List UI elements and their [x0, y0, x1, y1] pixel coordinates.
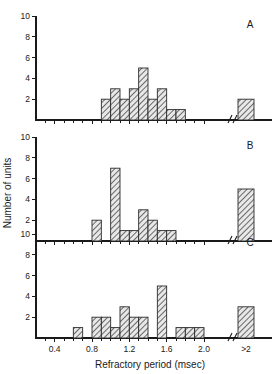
axis-lines	[36, 234, 272, 338]
histogram-bar	[167, 231, 176, 241]
x-tick-label: 1.6	[161, 344, 173, 354]
panel-letter-a: A	[247, 19, 254, 30]
histogram-bar	[157, 89, 166, 120]
y-axis-title: Number of units	[2, 158, 13, 229]
panel-letter-b: B	[247, 140, 254, 151]
panel-a: 246810A	[21, 11, 272, 124]
y-tick-label: 8	[25, 32, 30, 42]
histogram-bar	[195, 328, 204, 338]
y-tick-label: 8	[25, 153, 30, 163]
panel-c: 246810C0.40.81.21.62.0>2	[21, 229, 272, 354]
histogram-bar	[120, 307, 129, 338]
plot-area: 246810A246810B246810C0.40.81.21.62.0>2	[21, 11, 272, 354]
histogram-bar	[92, 220, 101, 241]
histogram-bar	[120, 99, 129, 120]
histogram-bar	[157, 231, 166, 241]
y-tick-label: 6	[25, 53, 30, 63]
histogram-bar	[167, 110, 176, 120]
histogram-bar	[148, 220, 157, 241]
y-tick-label: 4	[25, 73, 30, 83]
histogram-bar	[129, 89, 138, 120]
histogram-bar	[111, 168, 120, 241]
histogram-bar-overflow	[238, 99, 254, 120]
histogram-bar	[139, 68, 148, 120]
histogram-bar	[129, 231, 138, 241]
y-tick-label: 2	[25, 215, 30, 225]
histogram-bar	[157, 286, 166, 338]
panel-b: 246810B	[21, 132, 272, 245]
y-tick-label: 6	[25, 271, 30, 281]
histogram-bar	[139, 210, 148, 241]
histogram-bar	[73, 328, 82, 338]
histogram-bar-overflow	[238, 189, 254, 241]
histogram-bar	[92, 317, 101, 338]
histogram-bar	[111, 89, 120, 120]
histogram-bar	[120, 231, 129, 241]
x-tick-label: 0.8	[86, 344, 98, 354]
panel-letter-c: C	[246, 237, 253, 248]
y-tick-label: 4	[25, 194, 30, 204]
refractory-period-histogram-figure: 246810A246810B246810C0.40.81.21.62.0>2 R…	[0, 0, 278, 374]
histogram-bar	[185, 328, 194, 338]
y-tick-label: 8	[25, 250, 30, 260]
histogram-bar	[176, 110, 185, 120]
x-tick-label: 1.2	[123, 344, 135, 354]
figure-svg: 246810A246810B246810C0.40.81.21.62.0>2 R…	[0, 0, 278, 374]
axis-break-icon	[228, 236, 237, 244]
histogram-bar-overflow	[238, 307, 254, 338]
histogram-bar	[148, 99, 157, 120]
y-tick-label: 10	[21, 132, 31, 142]
y-tick-label: 2	[25, 94, 30, 104]
histogram-bar	[176, 328, 185, 338]
y-tick-label: 10	[21, 229, 31, 239]
histogram-bar	[101, 317, 110, 338]
histogram-bar	[101, 99, 110, 120]
x-tick-label: 0.4	[49, 344, 61, 354]
y-tick-label: 10	[21, 11, 31, 21]
x-axis-title: Refractory period (msec)	[95, 359, 205, 370]
histogram-bar	[129, 317, 138, 338]
y-tick-label: 4	[25, 291, 30, 301]
x-tick-label-overflow: >2	[241, 344, 251, 354]
axis-break-icon	[228, 115, 237, 123]
histogram-bar	[111, 328, 120, 338]
histogram-bar	[139, 317, 148, 338]
y-tick-label: 6	[25, 174, 30, 184]
axis-break-icon	[228, 333, 237, 341]
y-tick-label: 2	[25, 312, 30, 322]
x-tick-label: 2.0	[198, 344, 210, 354]
